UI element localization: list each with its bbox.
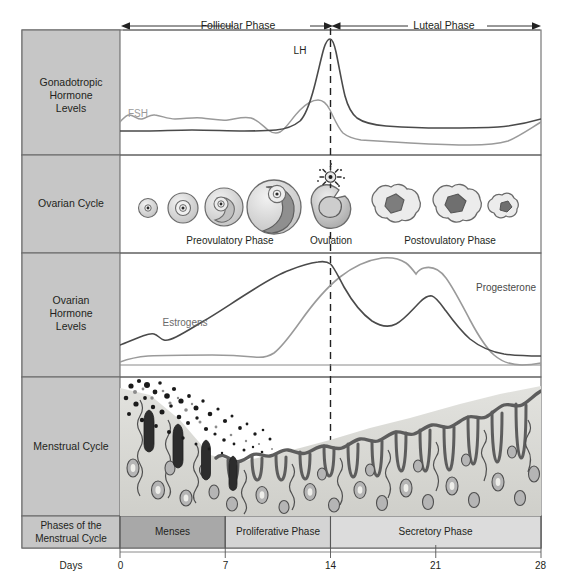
row-label-gonadotropic-line1: Gonadotropic	[39, 76, 102, 88]
row-label-gonadotropic: Gonadotropic Hormone Levels	[22, 76, 120, 115]
ovarian-stage-preovulatory: Preovulatory Phase	[150, 235, 310, 248]
lh-label: LH	[285, 45, 315, 58]
corpus-luteum-icon-1	[372, 184, 420, 222]
day-tick-0: 0	[110, 560, 131, 573]
row-label-gonadotropic-line3: Levels	[56, 102, 86, 114]
corpus-albicans-icon	[488, 193, 518, 218]
ovarian-stage-ovulation: Ovulation	[296, 235, 366, 248]
day-tick-7: 7	[215, 560, 236, 573]
top-phase-label-luteal: Luteal Phase	[396, 19, 492, 32]
fsh-label: FSH	[122, 108, 154, 121]
row-label-phases: Phases of the Menstrual Cycle	[22, 520, 120, 545]
row-label-ovarian-hormone-line3: Levels	[56, 320, 86, 332]
row-label-phases-line1: Phases of the	[40, 520, 101, 531]
row-label-ovarian-hormone-line1: Ovarian	[53, 294, 90, 306]
row-label-gonadotropic-line2: Hormone	[49, 89, 92, 101]
row-label-ovarian-cycle: Ovarian Cycle	[22, 197, 120, 210]
graafian-follicle-icon	[247, 180, 301, 234]
menstrual-phase-proliferative[interactable]: Proliferative Phase	[225, 526, 331, 539]
primordial-follicle-icon	[139, 199, 158, 218]
row-label-ovarian-hormone: Ovarian Hormone Levels	[22, 294, 120, 333]
ruptured-follicle-icon	[311, 185, 351, 229]
day-tick-21: 21	[425, 560, 446, 573]
day-tick-28: 28	[530, 560, 551, 573]
corpus-luteum-icon-2	[433, 184, 481, 222]
progesterone-label: Progesterone	[476, 282, 562, 295]
top-phase-label-follicular: Follicular Phase	[178, 19, 298, 32]
day-tick-14: 14	[320, 560, 341, 573]
primary-follicle-icon	[168, 193, 198, 223]
secondary-follicle-icon	[205, 188, 243, 226]
row-label-menstrual-cycle: Menstrual Cycle	[22, 440, 120, 453]
estrogens-label: Estrogens	[150, 317, 220, 330]
menstrual-phase-secretory[interactable]: Secretory Phase	[330, 526, 541, 539]
days-axis-label: Days	[40, 560, 102, 573]
ovarian-stage-postovulatory: Postovulatory Phase	[370, 235, 530, 248]
released-ovum-icon	[317, 163, 345, 188]
ovarian-cycle-illustration	[139, 163, 519, 234]
menstrual-cycle-diagram: Follicular Phase Luteal Phase Gonadotrop…	[0, 0, 567, 585]
row-label-phases-line2: Menstrual Cycle	[35, 533, 107, 544]
endometrium-illustration	[120, 379, 541, 516]
menstrual-phase-menses[interactable]: Menses	[120, 526, 225, 539]
row-label-ovarian-hormone-line2: Hormone	[49, 307, 92, 319]
